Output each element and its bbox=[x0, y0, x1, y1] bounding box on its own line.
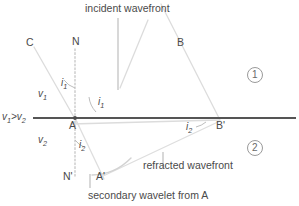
diagram-vector-layer bbox=[0, 0, 299, 206]
angle-label-i1-upper: i1 bbox=[61, 78, 67, 90]
faint-ray-group bbox=[34, 4, 220, 126]
incident-wavefront-AB bbox=[71, 120, 219, 124]
speed-inequality-label: v1>v2 bbox=[2, 112, 26, 124]
point-label-A: A bbox=[69, 120, 76, 131]
speed-v2-subscript: 2 bbox=[43, 139, 47, 148]
speed-v1-subscript: 1 bbox=[43, 93, 47, 102]
point-label-N-prime: N' bbox=[63, 171, 73, 182]
point-label-N: N bbox=[72, 36, 80, 47]
angle-arc-i1-lower bbox=[89, 97, 96, 112]
point-label-A-prime: A' bbox=[96, 171, 105, 182]
speed-label-v2: v2 bbox=[38, 135, 47, 147]
angle-i1-lower-subscript: 1 bbox=[100, 101, 104, 110]
point-label-B-prime: B' bbox=[216, 120, 225, 131]
refraction-diagram: incident wavefront refracted wavefront s… bbox=[0, 0, 299, 206]
ray-upper-left-segment bbox=[120, 20, 148, 88]
angle-label-i1-lower: i1 bbox=[98, 97, 104, 109]
angle-i1-upper-subscript: 1 bbox=[63, 82, 67, 91]
caption-refracted-wavefront: refracted wavefront bbox=[143, 160, 233, 171]
region-label-two: 2 bbox=[252, 143, 258, 153]
angle-label-i2-left: i2 bbox=[79, 140, 85, 152]
point-label-C: C bbox=[26, 37, 34, 48]
speed-label-v1: v1 bbox=[38, 89, 47, 101]
angle-i2-right-subscript: 2 bbox=[188, 126, 192, 135]
angle-label-i2-right: i2 bbox=[186, 122, 192, 134]
point-label-B: B bbox=[177, 37, 184, 48]
inequality-v2-subscript: 2 bbox=[22, 116, 26, 125]
ray-top-to-Bprime bbox=[161, 4, 220, 120]
angle-i2-left-subscript: 2 bbox=[81, 144, 85, 153]
caption-secondary-wavelet: secondary wavelet from A bbox=[88, 190, 208, 201]
angle-arc-i2-right bbox=[196, 122, 206, 127]
caption-incident-wavefront: incident wavefront bbox=[85, 3, 170, 14]
region-label-one: 1 bbox=[252, 70, 258, 80]
